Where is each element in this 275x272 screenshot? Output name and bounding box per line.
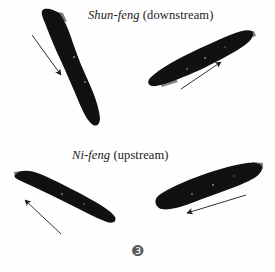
panel-number-marker: ❸	[0, 244, 275, 259]
caption-shun-feng: Shun-feng (downstream)	[88, 8, 213, 23]
caption-ni-feng: Ni-feng (upstream)	[72, 148, 169, 163]
caption-shun-feng-translation: (downstream)	[143, 8, 214, 22]
arrow-bottom-left	[25, 200, 61, 234]
brush-stroke-top-left	[42, 9, 100, 126]
caption-ni-feng-romanized: Ni-feng	[72, 148, 110, 162]
caption-shun-feng-romanized: Shun-feng	[88, 8, 140, 22]
strokes-layer	[0, 0, 275, 272]
brush-stroke-bottom-right	[155, 162, 263, 209]
brush-stroke-bottom-left	[14, 171, 116, 223]
brush-stroke-top-right	[148, 30, 256, 87]
brush-stroke-figure: Shun-feng (downstream) Ni-feng (upstream…	[0, 0, 275, 272]
caption-ni-feng-translation: (upstream)	[113, 148, 168, 162]
